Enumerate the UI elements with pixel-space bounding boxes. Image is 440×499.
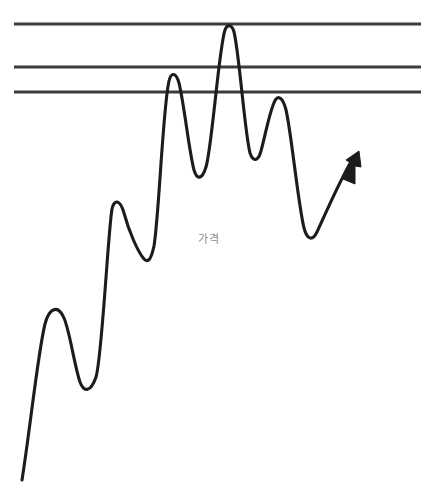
price-chart-diagram: 가격 xyxy=(0,0,440,499)
breakout-arrow-head xyxy=(343,151,361,184)
price-line-path xyxy=(22,26,352,480)
price-axis-label: 가격 xyxy=(198,230,219,246)
breakout-arrow-group xyxy=(343,151,361,184)
chart-canvas xyxy=(0,0,440,499)
price-line-group xyxy=(22,26,352,480)
